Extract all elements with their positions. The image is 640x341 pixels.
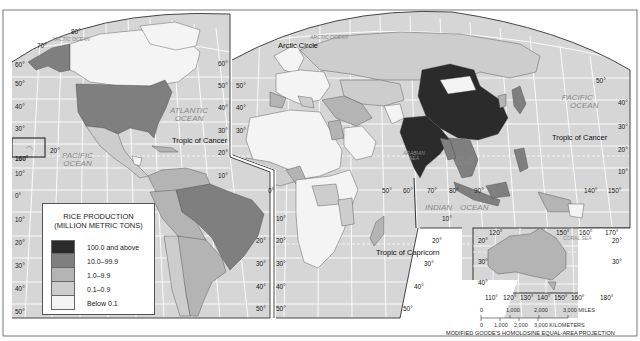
arctic-ocean-label-east: ARCTIC OCEAN xyxy=(310,35,348,40)
inset-lon-bottom: 150° xyxy=(554,295,567,302)
scale-km-3000: 3,000 KILOMETERS xyxy=(534,322,585,328)
lon-label: 140° xyxy=(584,188,597,195)
lat-label: 0° xyxy=(268,188,274,195)
inset-lat-label: 40° xyxy=(478,280,488,287)
lat-label: 30° xyxy=(276,261,286,268)
bay-of-bengal-label: BAY OFBENGAL xyxy=(455,156,475,167)
legend-swatch xyxy=(51,282,75,296)
pacific-ocean-label-east: PACIFICOCEAN xyxy=(556,94,598,111)
indian-ocean-label-1: INDIAN xyxy=(425,204,452,212)
scale-miles-0: 0 xyxy=(480,307,483,313)
lat-label: 40° xyxy=(618,100,628,107)
projection-caption: MODIFIED GOODE'S HOMOLOSINE EQUAL-AREA P… xyxy=(446,330,615,336)
legend-label: Below 0.1 xyxy=(87,300,118,307)
inset-lon-bottom: 160° xyxy=(571,295,584,302)
legend: RICE PRODUCTION (MILLION METRIC TONS) 10… xyxy=(42,203,155,315)
arabian-sea-label: ARABIANSEA xyxy=(403,151,425,162)
inset-lat-label: 30° xyxy=(478,259,488,266)
inset-lat-label: 20° xyxy=(478,238,488,245)
legend-rows: 100.0 and above 10.0–99.9 1.0–9.9 0.1–0.… xyxy=(51,240,139,310)
legend-label: 100.0 and above xyxy=(87,244,139,251)
inset-lon-bottom: 120° xyxy=(503,295,516,302)
lat-label: 30° xyxy=(236,128,246,135)
lat-label: 40° xyxy=(236,105,246,112)
lat-label: 30° xyxy=(15,263,25,270)
hawaii-lat-label: 20° xyxy=(50,148,60,155)
lat-label: 50° xyxy=(256,306,266,313)
bengal-line-2: BENGAL xyxy=(455,161,475,166)
lat-80-label: 80° xyxy=(71,29,81,36)
lat-label: 10° xyxy=(442,216,452,223)
lat-label-50-east: 50° xyxy=(596,78,606,85)
lat-label: 10° xyxy=(15,217,25,224)
lat-label: 20° xyxy=(432,238,442,245)
lat-label: 30° xyxy=(218,128,228,135)
inset-lon-bottom: 110° xyxy=(485,295,498,302)
indian-ocean-label-2: OCEAN xyxy=(460,204,488,212)
lon-label: 50° xyxy=(382,188,392,195)
inset-lat-label: 20° xyxy=(612,238,622,245)
lon-label: 60° xyxy=(403,188,413,195)
lat-label: 40° xyxy=(218,105,228,112)
legend-label: 10.0–99.9 xyxy=(87,258,118,265)
inset-lon-bottom: 140° xyxy=(537,295,550,302)
lon-label: 80° xyxy=(449,188,459,195)
inset-lon-bottom: 130° xyxy=(520,295,533,302)
lat-label: 10° xyxy=(618,169,628,176)
legend-label: 0.1–0.9 xyxy=(87,286,110,293)
lat-label: 50° xyxy=(236,83,246,90)
scale-km-1000: 1,000 xyxy=(494,322,508,328)
pacific-e-line-2: OCEAN xyxy=(570,102,598,110)
inset-lon-label: 120° xyxy=(489,230,502,237)
legend-title-line-1: RICE PRODUCTION xyxy=(43,212,154,221)
legend-swatch xyxy=(51,268,75,282)
lon-label: 150° xyxy=(608,188,621,195)
scale-km-2000: 2,000 xyxy=(514,322,528,328)
pacific-ocean-label-west: PACIFICOCEAN xyxy=(62,152,93,169)
legend-item: 100.0 and above xyxy=(51,240,139,254)
lat-label: 20° xyxy=(218,150,228,157)
legend-swatch xyxy=(51,254,75,268)
legend-item: Below 0.1 xyxy=(51,296,139,310)
lat-label: 20° xyxy=(256,238,266,245)
lat-70-label: 70° xyxy=(37,43,47,50)
atlantic-line-2: OCEAN xyxy=(170,115,208,123)
inset-lon-bottom: 180° xyxy=(600,295,613,302)
coral-sea-label: CORAL SEA xyxy=(563,236,592,241)
lat-label: 50° xyxy=(15,309,25,316)
scale-km-0: 0 xyxy=(480,322,483,328)
legend-swatch xyxy=(51,296,75,310)
lat-label: 40° xyxy=(15,104,25,111)
lat-label: 40° xyxy=(256,284,266,291)
lat-label: 10° xyxy=(15,171,25,178)
lat-label: 40° xyxy=(414,284,424,291)
lat-label: 20° xyxy=(276,238,286,245)
legend-label: 1.0–9.9 xyxy=(87,272,110,279)
lon-label: 90° xyxy=(474,188,484,195)
legend-title: RICE PRODUCTION (MILLION METRIC TONS) xyxy=(43,212,154,231)
tropic-of-capricorn-label: Tropic of Capricorn xyxy=(376,249,440,257)
lat-label: 0° xyxy=(15,193,21,200)
lat-label: 30° xyxy=(256,261,266,268)
lat-label: 20° xyxy=(618,147,628,154)
lat-label: 40° xyxy=(15,286,25,293)
pacific-w-line-2: OCEAN xyxy=(62,160,93,168)
lat-label: 10° xyxy=(218,173,228,180)
lat-label: 30° xyxy=(618,124,628,131)
lat-label: 60° xyxy=(218,61,228,68)
legend-item: 0.1–0.9 xyxy=(51,282,139,296)
arctic-circle-label: Arctic Circle xyxy=(278,42,318,50)
atlantic-ocean-label: ATLANTICOCEAN xyxy=(170,107,208,124)
lat-label: 50° xyxy=(218,83,228,90)
arabian-line-2: SEA xyxy=(403,156,425,161)
lat-label: 30° xyxy=(15,126,25,133)
hawaii-lon-label: 160° xyxy=(15,156,28,163)
lat-label: 10° xyxy=(276,216,286,223)
lat-label: 50° xyxy=(403,306,413,313)
lat-label: 50° xyxy=(276,306,286,313)
lat-label: 50° xyxy=(15,81,25,88)
lat-label: 40° xyxy=(276,284,286,291)
scale-miles-3000: 3,000 MILES xyxy=(563,307,595,313)
inset-lat-label: 30° xyxy=(612,259,622,266)
inset-lon-label: 150° xyxy=(556,230,569,237)
